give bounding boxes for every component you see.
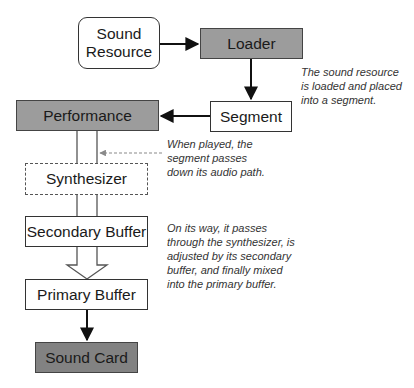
node-performance: Performance	[16, 100, 159, 131]
node-performance-label: Performance	[43, 107, 132, 125]
node-primary-buffer: Primary Buffer	[25, 279, 148, 310]
node-loader-label: Loader	[227, 35, 275, 53]
node-sound-card-label: Sound Card	[45, 349, 128, 367]
node-secondary-buffer: Secondary Buffer	[25, 216, 148, 247]
node-sound-resource: Sound Resource	[78, 17, 160, 69]
node-sound-resource-line1: Sound	[97, 25, 142, 43]
node-segment-label: Segment	[220, 108, 282, 126]
node-sound-card: Sound Card	[35, 342, 138, 373]
hollow-arrow-secondary-to-primary	[67, 247, 107, 279]
note-path: On its way, it passes through the synthe…	[167, 221, 295, 291]
note-load: The sound resource is loaded and placed …	[301, 65, 402, 107]
node-segment: Segment	[210, 101, 292, 132]
note-play: When played, the segment passes down its…	[167, 137, 265, 179]
node-synthesizer: Synthesizer	[25, 163, 148, 195]
node-primary-buffer-label: Primary Buffer	[37, 286, 136, 304]
node-synthesizer-label: Synthesizer	[46, 170, 127, 188]
node-sound-resource-line2: Resource	[86, 43, 152, 61]
node-secondary-buffer-label: Secondary Buffer	[27, 223, 146, 241]
node-loader: Loader	[200, 28, 303, 59]
